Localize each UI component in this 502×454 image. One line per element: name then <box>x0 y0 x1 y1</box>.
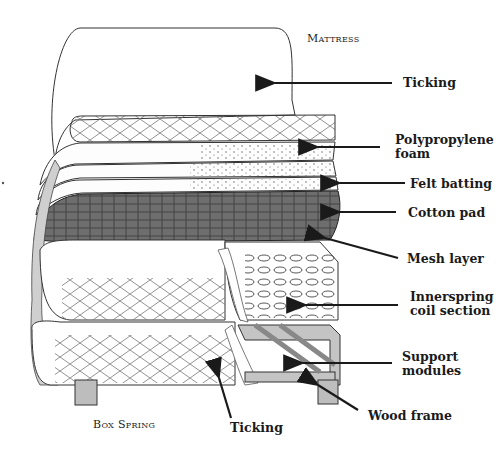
label-support-modules-line1: Support <box>402 350 458 364</box>
diagram-illustration <box>0 0 502 454</box>
label-innerspring-line1: Innerspring <box>410 290 494 304</box>
label-polypropylene-foam-line1: Polypropylene <box>395 133 494 147</box>
label-wood-frame: Wood frame <box>368 409 452 423</box>
stray-mark <box>2 182 4 184</box>
quilted-top-band <box>70 115 335 142</box>
label-support-modules-line2: modules <box>402 364 461 378</box>
label-innerspring-line2: coil section <box>410 304 490 318</box>
mattress-lower-quilt <box>40 240 225 320</box>
label-ticking-bottom: Ticking <box>230 421 283 435</box>
arrow-mesh-layer <box>325 238 398 258</box>
box-spring-body <box>32 321 258 385</box>
cotton-pad-layer <box>34 191 340 242</box>
mattress-diagram: Mattress Box Spring Ticking Polypropylen… <box>0 0 502 454</box>
label-polypropylene-foam-line2: foam <box>395 147 430 161</box>
innerspring-coils <box>218 242 338 322</box>
label-cotton-pad: Cotton pad <box>408 206 485 220</box>
label-felt-batting: Felt batting <box>410 177 492 191</box>
caption-box-spring: Box Spring <box>93 418 155 431</box>
label-ticking-top: Ticking <box>403 76 456 90</box>
label-mesh-layer: Mesh layer <box>407 252 484 266</box>
caption-mattress: Mattress <box>307 32 360 45</box>
